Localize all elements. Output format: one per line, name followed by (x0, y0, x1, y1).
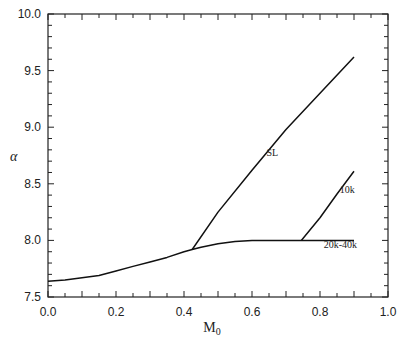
annotation-label: 20k-40k (324, 239, 357, 250)
y-tick-label: 8.0 (24, 233, 41, 247)
curve-10k (301, 171, 354, 240)
y-tick-label: 9.5 (24, 64, 41, 78)
annotation-label: SL (267, 147, 279, 158)
y-axis-title: α (10, 149, 18, 164)
y-tick-label: 10.0 (18, 7, 42, 21)
annotation-label: 10k (340, 184, 355, 195)
axis-ticks (48, 14, 388, 297)
plot-border (48, 14, 388, 297)
y-tick-label: 7.5 (24, 290, 41, 304)
x-tick-label: 1.0 (380, 305, 397, 319)
data-curves (48, 57, 354, 281)
curve-annotations: SL10k20k-40k (267, 147, 358, 251)
x-tick-label: 0.8 (312, 305, 329, 319)
tick-labels: 0.00.20.40.60.81.07.58.08.59.09.510.0 (18, 7, 397, 319)
x-tick-label: 0.6 (244, 305, 261, 319)
x-tick-label: 0.2 (108, 305, 125, 319)
y-tick-label: 8.5 (24, 177, 41, 191)
y-tick-label: 9.0 (24, 120, 41, 134)
x-tick-label: 0.0 (40, 305, 57, 319)
x-axis-title: M0 (203, 320, 220, 337)
curve-20k-40k (48, 240, 354, 281)
chart: 0.00.20.40.60.81.07.58.08.59.09.510.0 SL… (0, 0, 408, 349)
x-tick-label: 0.4 (176, 305, 193, 319)
plot-frame (48, 14, 388, 297)
